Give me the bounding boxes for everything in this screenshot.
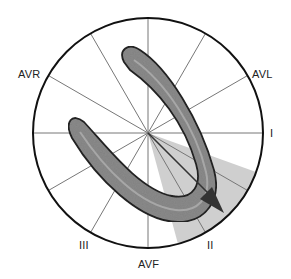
hexaxial-diagram [0,0,291,279]
lead-label-avl: AVL [252,69,273,80]
lead-label-i: I [270,128,273,139]
lead-label-avr: AVR [18,69,40,80]
lead-label-ii: II [207,240,214,251]
qrs-loop [69,47,216,222]
lead-label-iii: III [79,240,89,251]
lead-label-avf: AVF [138,259,159,270]
